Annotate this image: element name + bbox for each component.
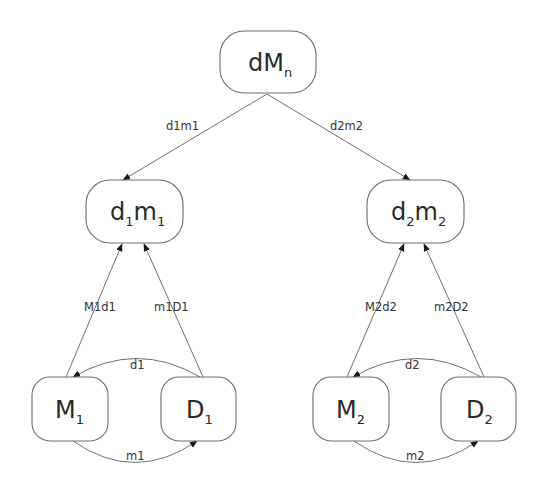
node-D1[interactable]: D1 <box>161 377 236 441</box>
edge-d2m2[interactable]: d2m2 <box>267 94 410 180</box>
edge-label: d1m1 <box>166 119 199 133</box>
edge-line[interactable] <box>123 94 267 180</box>
edge-line[interactable] <box>267 94 410 180</box>
edge-m2D2[interactable]: m2D2 <box>424 244 484 377</box>
hierarchy-diagram: d1m1 d2m2 M1d1 m1D1 M2d2 m2D2 <box>0 0 547 494</box>
edge-M1d1[interactable]: M1d1 <box>66 244 122 377</box>
edge-label: m1 <box>126 449 145 463</box>
edge-label: m1D1 <box>154 300 189 314</box>
edge-d1[interactable]: d1 <box>73 358 200 377</box>
nodes: dMn d1m1 d2m2 M1 D1 <box>32 31 516 441</box>
edge-M2d2[interactable]: M2d2 <box>347 244 404 377</box>
edge-label: d2 <box>405 358 420 372</box>
edges: d1m1 d2m2 M1d1 m1D1 M2d2 m2D2 <box>66 94 484 463</box>
edge-d1m1[interactable]: d1m1 <box>123 94 267 180</box>
node-M2[interactable]: M2 <box>313 377 389 441</box>
edge-d2[interactable]: d2 <box>353 358 481 377</box>
node-d1m1[interactable]: d1m1 <box>86 180 183 243</box>
node-dMn[interactable]: dMn <box>220 31 316 93</box>
edge-label: m2 <box>406 449 425 463</box>
edge-m2[interactable]: m2 <box>354 441 478 463</box>
edge-label: d2m2 <box>330 119 363 133</box>
node-D2[interactable]: D2 <box>441 377 516 441</box>
edge-m1[interactable]: m1 <box>73 441 197 463</box>
edge-label: m2D2 <box>434 300 469 314</box>
edge-label: M1d1 <box>84 300 116 314</box>
edge-m1D1[interactable]: m1D1 <box>144 244 203 377</box>
edge-label: d1 <box>130 358 145 372</box>
node-M1[interactable]: M1 <box>32 377 108 441</box>
edge-label: M2d2 <box>365 300 397 314</box>
node-d2m2[interactable]: d2m2 <box>367 180 464 243</box>
